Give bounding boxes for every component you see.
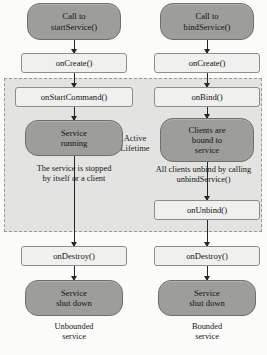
caption-unbounded-line-2: service — [24, 332, 124, 342]
node-service-running: Service running — [25, 120, 123, 156]
call-to-bind-service-line-1: Call to — [184, 11, 231, 21]
call-to-start-service-line-1: Call to — [51, 11, 97, 21]
arrow-onunbind-to-ondestroy — [207, 220, 208, 246]
arrow-start-to-oncreate-right — [207, 40, 208, 53]
node-service-shut-down-unbounded: Service shut down — [25, 280, 123, 316]
arrow-onstartcommand-to-running — [74, 107, 75, 120]
caption-unbounded-line-1: Unbounded — [24, 322, 124, 332]
node-onunbind: onUnbind() — [154, 200, 260, 220]
call-to-bind-service-line-2: bindService() — [184, 22, 231, 32]
service-running-line-1: Service — [61, 128, 88, 138]
ondestroy-unbounded-label: onDestroy() — [53, 251, 95, 261]
onunbind-label: onUnbind() — [187, 205, 227, 215]
caption-bounded-line-1: Bounded — [157, 322, 257, 332]
node-oncreate-unbounded: onCreate() — [21, 53, 127, 73]
shutdown-unbounded-line-2: shut down — [56, 298, 92, 308]
node-oncreate-bounded: onCreate() — [154, 53, 260, 73]
node-clients-bound-to-service: Clients are bound to service — [160, 118, 254, 162]
shutdown-bounded-line-1: Service — [189, 288, 225, 298]
shutdown-unbounded-line-1: Service — [56, 288, 92, 298]
node-ondestroy-unbounded: onDestroy() — [21, 246, 127, 266]
call-to-start-service-line-2: startService() — [51, 22, 97, 32]
unbind-note-line-1: All clients unbind by calling — [140, 165, 267, 175]
arrow-to-ondestroy-left — [74, 232, 75, 246]
label-service-stopped-note: The service is stopped by itself or a cl… — [4, 164, 144, 184]
unbind-note-line-2: unbindService() — [140, 175, 267, 185]
caption-bounded-line-2: service — [157, 332, 257, 342]
arrow-start-to-oncreate-left — [74, 40, 75, 53]
caption-unbounded-service: Unbounded service — [24, 322, 124, 342]
node-call-to-start-service: Call to startService() — [27, 3, 121, 40]
arrow-to-onunbind — [207, 188, 208, 200]
node-ondestroy-bounded: onDestroy() — [154, 246, 260, 266]
arrow-ondestroy-to-shutdown-right — [207, 266, 208, 280]
node-onstartcommand: onStartCommand() — [15, 87, 133, 107]
oncreate-unbounded-label: onCreate() — [56, 58, 93, 68]
label-unbind-note: All clients unbind by calling unbindServ… — [140, 165, 267, 185]
node-onbind: onBind() — [154, 87, 260, 107]
arrow-ondestroy-to-shutdown-left — [74, 266, 75, 280]
service-stopped-note-line-1: The service is stopped — [4, 164, 144, 174]
ondestroy-bounded-label: onDestroy() — [186, 251, 228, 261]
arrow-onbind-to-clients-bound — [207, 107, 208, 118]
node-call-to-bind-service: Call to bindService() — [160, 3, 254, 40]
shutdown-bounded-line-2: shut down — [189, 298, 225, 308]
service-lifecycle-diagram: Active Lifetime Call to startService() o… — [0, 0, 267, 355]
clients-bound-line-3: service — [189, 145, 226, 155]
arrow-oncreate-to-onbind — [207, 73, 208, 87]
onbind-label: onBind() — [191, 92, 222, 102]
caption-bounded-service: Bounded service — [157, 322, 257, 342]
onstartcommand-label: onStartCommand() — [41, 92, 107, 102]
arrow-oncreate-to-onstartcommand — [74, 73, 75, 87]
service-stopped-note-line-2: by itself or a client — [4, 174, 144, 184]
clients-bound-line-1: Clients are — [189, 125, 226, 135]
node-service-shut-down-bounded: Service shut down — [158, 280, 256, 316]
service-running-line-2: running — [61, 138, 88, 148]
clients-bound-line-2: bound to — [189, 135, 226, 145]
oncreate-bounded-label: onCreate() — [189, 58, 226, 68]
